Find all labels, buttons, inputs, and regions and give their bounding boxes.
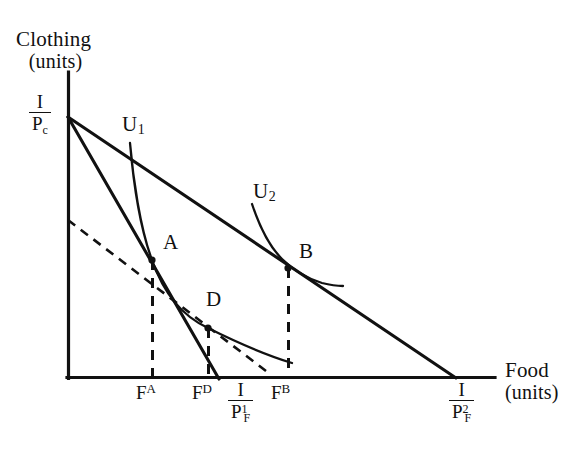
x-tick-label-fb: FB bbox=[271, 382, 290, 403]
y-axis-title: Clothing (units) bbox=[16, 28, 91, 72]
denominator-subscript: F bbox=[244, 411, 251, 425]
x-axis-title-line2: (units) bbox=[505, 382, 559, 404]
marker-point-d bbox=[204, 324, 211, 331]
curve-label-u1-subscript: 1 bbox=[137, 122, 145, 137]
drop-lines-group bbox=[153, 260, 289, 377]
y-axis-title-line1: Clothing bbox=[16, 27, 91, 51]
denominator-base: P bbox=[32, 113, 43, 134]
fraction-numerator: I bbox=[228, 380, 253, 400]
x-axis-title-line1: Food bbox=[505, 358, 549, 382]
curve-label-u2-subscript: 2 bbox=[268, 189, 276, 204]
x-intercept-label-2: I P2F bbox=[449, 380, 474, 424]
marker-point-b bbox=[284, 264, 291, 271]
x-tick-fd-base: F bbox=[192, 382, 203, 403]
budget-line-new bbox=[68, 117, 456, 378]
x-tick-label-fa: FA bbox=[136, 382, 156, 403]
marker-point-a bbox=[148, 256, 155, 263]
indifference-curve-u2 bbox=[252, 204, 343, 286]
point-label-a: A bbox=[163, 231, 178, 254]
fraction-denominator: P1F bbox=[228, 400, 253, 424]
fraction-i-over-pf2: I P2F bbox=[449, 380, 474, 424]
curve-label-u1-base: U bbox=[122, 112, 137, 136]
x-tick-fb-base: F bbox=[271, 382, 282, 403]
figure-root: Clothing (units) Food (units) I Pc A B D… bbox=[0, 0, 581, 459]
y-intercept-label: I Pc bbox=[29, 92, 51, 136]
x-tick-fd-superscript: D bbox=[203, 381, 212, 396]
budget-line-original bbox=[68, 117, 219, 379]
fraction-numerator: I bbox=[29, 92, 51, 112]
fraction-denominator: Pc bbox=[29, 112, 51, 136]
fraction-i-over-pc: I Pc bbox=[29, 92, 51, 136]
curve-label-u1: U1 bbox=[122, 113, 145, 137]
x-tick-label-fd: FD bbox=[192, 382, 212, 403]
point-label-d: D bbox=[206, 288, 221, 311]
y-axis-title-line2: (units) bbox=[16, 51, 91, 73]
curve-label-u2: U2 bbox=[253, 180, 276, 204]
budget-lines-group bbox=[68, 117, 456, 379]
fraction-numerator: I bbox=[449, 380, 474, 400]
fraction-denominator: P2F bbox=[449, 400, 474, 424]
x-intercept-label-1: I P1F bbox=[228, 380, 253, 424]
denominator-subscript: c bbox=[43, 123, 48, 137]
denominator-base: P bbox=[452, 401, 463, 422]
x-tick-fb-superscript: B bbox=[282, 381, 291, 396]
denominator-subscript: F bbox=[465, 411, 472, 425]
x-axis-title: Food (units) bbox=[505, 359, 559, 403]
fraction-i-over-pf1: I P1F bbox=[228, 380, 253, 424]
denominator-base: P bbox=[231, 401, 242, 422]
point-label-b: B bbox=[299, 240, 313, 263]
x-tick-fa-superscript: A bbox=[147, 381, 156, 396]
x-tick-fa-base: F bbox=[136, 382, 147, 403]
curve-label-u2-base: U bbox=[253, 179, 268, 203]
